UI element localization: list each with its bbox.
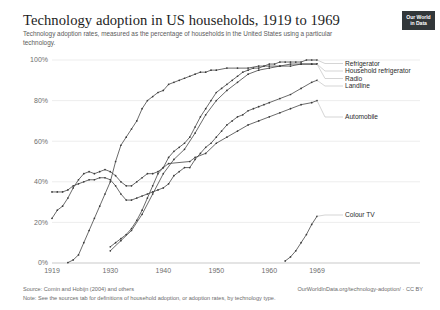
series-marker (237, 81, 239, 83)
series-marker (205, 146, 207, 148)
series-marker (104, 177, 106, 179)
series-marker (194, 132, 196, 134)
series-marker (237, 116, 239, 118)
series-marker (157, 173, 159, 175)
series-marker (194, 126, 196, 128)
series-marker (131, 128, 133, 130)
series-line[interactable] (110, 64, 317, 251)
series-marker (157, 171, 159, 173)
series-marker (168, 183, 170, 185)
series-marker (120, 240, 122, 242)
legend-label-automobile[interactable]: Automobile (345, 113, 378, 120)
chart-footer: Source: Comin and Hobijn (2004) and othe… (23, 286, 423, 301)
series-marker (231, 120, 233, 122)
series-marker (83, 173, 85, 175)
series-marker (88, 179, 90, 181)
series-marker (306, 59, 308, 61)
series-marker (147, 193, 149, 195)
plot-area: 0%20%40%60%80%100%1919193019401950196019… (0, 0, 440, 310)
series-line[interactable] (110, 60, 317, 247)
series-marker (141, 195, 143, 197)
series-marker (136, 181, 138, 183)
series-marker (147, 100, 149, 102)
series-marker (99, 171, 101, 173)
series-marker (168, 157, 170, 159)
series-marker (162, 173, 164, 175)
series-marker (290, 256, 292, 258)
series-marker (300, 63, 302, 65)
x-axis-tick-label: 1919 (44, 267, 60, 274)
series-marker (189, 161, 191, 163)
series-marker (157, 92, 159, 94)
legend-label-colour-tv[interactable]: Colour TV (345, 211, 375, 218)
series-marker (184, 148, 186, 150)
series-marker (152, 191, 154, 193)
series-marker (157, 189, 159, 191)
series-marker (247, 110, 249, 112)
x-axis-tick-label: 1969 (309, 267, 325, 274)
series-marker (194, 157, 196, 159)
x-axis-tick-label: 1950 (209, 267, 225, 274)
y-axis-tick-label: 80% (34, 97, 48, 104)
series-marker (178, 146, 180, 148)
series-marker (189, 75, 191, 77)
series-marker (247, 69, 249, 71)
series-marker (200, 116, 202, 118)
source-text: Source: Comin and Hobijn (2004) and othe… (23, 286, 134, 292)
series-marker (311, 102, 313, 104)
series-marker (226, 90, 228, 92)
inline-legend: RefrigeratorHousehold refrigeratorRadioL… (317, 60, 411, 219)
series-marker (168, 163, 170, 165)
series-marker (173, 159, 175, 161)
series-marker (306, 234, 308, 236)
series-marker (242, 114, 244, 116)
series-marker (109, 179, 111, 181)
series-marker (62, 205, 64, 207)
series-marker (115, 175, 117, 177)
legend-label-landline[interactable]: Landline (345, 82, 370, 89)
series-marker (258, 106, 260, 108)
series-marker (120, 144, 122, 146)
series-marker (300, 61, 302, 63)
legend-leader-line (317, 215, 343, 216)
series-marker (295, 61, 297, 63)
series-line[interactable] (285, 216, 317, 261)
legend-label-radio[interactable]: Radio (345, 75, 363, 82)
series-marker (62, 191, 64, 193)
series-marker (268, 65, 270, 67)
series-marker (115, 185, 117, 187)
line-chart-svg: 0%20%40%60%80%100%1919193019401950196019… (0, 0, 440, 310)
series-marker (109, 181, 111, 183)
x-axis-tick-label: 1960 (262, 267, 278, 274)
series-marker (178, 171, 180, 173)
series-marker (147, 173, 149, 175)
series-marker (215, 69, 217, 71)
series-marker (67, 262, 69, 264)
series-marker (51, 191, 53, 193)
series-marker (210, 100, 212, 102)
series-marker (311, 63, 313, 65)
series-marker (94, 217, 96, 219)
series-marker (279, 112, 281, 114)
series-marker (258, 65, 260, 67)
series-marker (290, 65, 292, 67)
series-marker (311, 81, 313, 83)
series-marker (284, 61, 286, 63)
series-marker (247, 73, 249, 75)
series-marker (300, 88, 302, 90)
series-marker (109, 246, 111, 248)
series-marker (194, 73, 196, 75)
series-marker (184, 77, 186, 79)
owid-chart: Technology adoption in US households, 19… (0, 0, 440, 310)
series-marker (231, 79, 233, 81)
series-marker (205, 108, 207, 110)
y-axis-tick-label: 40% (34, 178, 48, 185)
series-marker (115, 242, 117, 244)
source-url[interactable]: OurWorldInData.org/technology-adoption/ … (297, 286, 423, 292)
series-marker (78, 254, 80, 256)
series-line[interactable] (52, 101, 317, 219)
series-marker (94, 179, 96, 181)
series-marker (226, 136, 228, 138)
series-marker (152, 96, 154, 98)
series-marker (67, 189, 69, 191)
